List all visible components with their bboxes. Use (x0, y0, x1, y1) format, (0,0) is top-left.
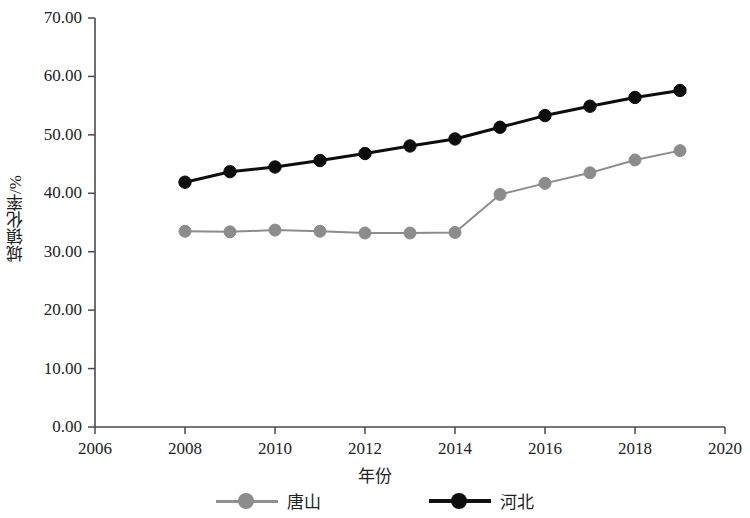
x-tick-label: 2020 (708, 439, 742, 459)
data-point (179, 176, 191, 188)
y-tick-label: 70.00 (0, 8, 82, 28)
data-point (314, 225, 326, 237)
data-point (449, 226, 461, 238)
data-point (224, 226, 236, 238)
x-tick-label: 2018 (618, 439, 652, 459)
data-point (314, 154, 326, 166)
y-tick-label: 20.00 (0, 300, 82, 320)
legend-label-tangshan: 唐山 (287, 488, 321, 513)
legend-item-hebei[interactable]: 河北 (429, 488, 534, 513)
x-tick-label: 2012 (348, 439, 382, 459)
legend-marker-hebei (429, 492, 491, 510)
data-point (449, 133, 461, 145)
data-point (584, 100, 596, 112)
chart-figure: 0.0010.0020.0030.0040.0050.0060.0070.002… (0, 0, 750, 518)
legend-item-tangshan[interactable]: 唐山 (216, 488, 321, 513)
data-point (404, 227, 416, 239)
data-point (629, 154, 641, 166)
x-axis-label: 年份 (0, 462, 750, 487)
legend-dot-hebei (451, 493, 467, 509)
x-tick-label: 2006 (78, 439, 112, 459)
legend-label-hebei: 河北 (500, 488, 534, 513)
legend-marker-tangshan (216, 492, 278, 510)
data-series-group (179, 84, 686, 239)
data-point (494, 121, 506, 133)
data-point (224, 165, 236, 177)
y-axis-label: 城镇化率/% (6, 175, 34, 262)
data-point (674, 145, 686, 157)
data-point (494, 188, 506, 200)
y-tick-label: 10.00 (0, 359, 82, 379)
data-point (269, 224, 281, 236)
data-point (359, 227, 371, 239)
series-line-1 (185, 151, 680, 233)
y-tick-label: 60.00 (0, 66, 82, 86)
data-point (539, 109, 551, 121)
data-point (359, 147, 371, 159)
data-point (179, 225, 191, 237)
x-tick-label: 2014 (438, 439, 472, 459)
x-tick-label: 2008 (168, 439, 202, 459)
data-point (674, 84, 686, 96)
data-point (629, 91, 641, 103)
axis-lines (95, 18, 725, 427)
data-point (269, 161, 281, 173)
data-point (404, 140, 416, 152)
data-point (539, 177, 551, 189)
x-tick-label: 2010 (258, 439, 292, 459)
y-tick-label: 0.00 (0, 417, 82, 437)
legend-dot-tangshan (238, 493, 254, 509)
chart-legend: 唐山 河北 (0, 488, 750, 513)
y-tick-label: 50.00 (0, 125, 82, 145)
x-tick-label: 2016 (528, 439, 562, 459)
data-point (584, 167, 596, 179)
